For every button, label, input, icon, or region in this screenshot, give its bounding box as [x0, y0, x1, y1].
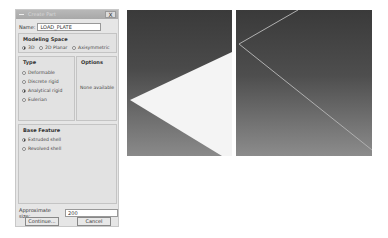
- cancel-button[interactable]: Cancel: [77, 217, 111, 226]
- radio-deformable[interactable]: Deformable: [22, 70, 55, 75]
- radio-axisymmetric[interactable]: Axisymmetric: [72, 45, 110, 50]
- radio-selected-icon: [22, 138, 26, 142]
- radio-2d-planar[interactable]: 2D Planar: [39, 45, 67, 50]
- viewport-wireframe[interactable]: [236, 10, 372, 156]
- modeling-space-group: Modeling Space 3D 2D Planar Axisymmetric: [18, 33, 117, 53]
- name-input[interactable]: LOAD_PLATE: [37, 23, 101, 31]
- radio-icon: [22, 71, 26, 75]
- name-label: Name:: [19, 24, 35, 30]
- continue-button[interactable]: Continue...: [25, 217, 59, 226]
- options-title: Options: [81, 59, 103, 65]
- base-feature-group: Base Feature Extruded shell Revolved she…: [18, 124, 117, 204]
- options-group: Options None available: [76, 56, 117, 121]
- type-group: Type Deformable Discrete rigid Analytica…: [18, 56, 75, 121]
- shaded-plate-shape: [127, 10, 232, 156]
- radio-analytical-rigid[interactable]: Analytical rigid: [22, 88, 62, 93]
- close-button[interactable]: X: [105, 11, 116, 18]
- type-title: Type: [23, 59, 36, 65]
- window-menu-icon[interactable]: [19, 14, 24, 15]
- dialog-title: Create Part: [28, 11, 56, 17]
- approx-size-input[interactable]: 200: [65, 209, 118, 217]
- radio-revolved-shell[interactable]: Revolved shell: [22, 146, 61, 151]
- radio-selected-icon: [22, 46, 26, 50]
- radio-eulerian[interactable]: Eulerian: [22, 97, 47, 102]
- name-row: Name: LOAD_PLATE: [19, 23, 101, 31]
- radio-icon: [22, 98, 26, 102]
- radio-icon: [22, 147, 26, 151]
- modeling-space-title: Modeling Space: [23, 36, 68, 42]
- wireframe-plate-shape: [236, 10, 372, 156]
- radio-discrete-rigid[interactable]: Discrete rigid: [22, 79, 59, 84]
- dialog-titlebar[interactable]: Create Part X: [16, 10, 118, 19]
- create-part-dialog: Create Part X Name: LOAD_PLATE Modeling …: [15, 9, 119, 227]
- viewport-shaded[interactable]: [127, 10, 232, 156]
- radio-selected-icon: [22, 89, 26, 93]
- radio-icon: [22, 80, 26, 84]
- radio-3d[interactable]: 3D: [22, 45, 34, 50]
- base-feature-title: Base Feature: [23, 127, 60, 133]
- radio-icon: [72, 46, 76, 50]
- radio-extruded-shell[interactable]: Extruded shell: [22, 137, 61, 142]
- options-none-text: None available: [80, 85, 114, 90]
- radio-icon: [39, 46, 43, 50]
